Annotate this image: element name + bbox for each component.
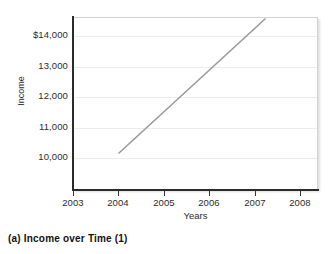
x-tick-label-2007: 2007 (232, 197, 278, 208)
x-tick-2004 (118, 191, 119, 196)
y-tick-label-11000: 11,000 (39, 121, 68, 132)
y-tick-label-10000: 10,000 (38, 151, 68, 162)
plot-area (73, 17, 318, 190)
x-tick-label-2004: 2004 (95, 197, 141, 208)
y-tick-label-12000: 12,000 (38, 90, 68, 101)
x-tick-2003 (73, 191, 74, 196)
income-line-series (74, 18, 317, 189)
x-tick-label-2006: 2006 (186, 197, 232, 208)
x-tick-label-2008: 2008 (277, 197, 323, 208)
x-tick-2005 (164, 191, 165, 196)
y-tick-label-14000: $14,000 (33, 29, 68, 40)
series-layer (74, 18, 317, 189)
income-line (119, 19, 265, 153)
x-tick-2007 (255, 191, 256, 196)
x-tick-2008 (300, 191, 301, 196)
y-tick-label-13000: 13,000 (38, 60, 68, 71)
y-axis-title: Income (16, 61, 26, 121)
x-tick-2006 (209, 191, 210, 196)
y-axis-line (72, 16, 74, 191)
x-axis-title: Years (73, 210, 318, 221)
x-axis-line (72, 189, 319, 191)
figure-income-over-time-1: Income $14,000 13,000 12,000 11,000 10,0… (0, 0, 336, 254)
x-tick-label-2005: 2005 (141, 197, 187, 208)
x-tick-label-2003: 2003 (50, 197, 96, 208)
figure-caption: (a) Income over Time (1) (8, 233, 128, 244)
